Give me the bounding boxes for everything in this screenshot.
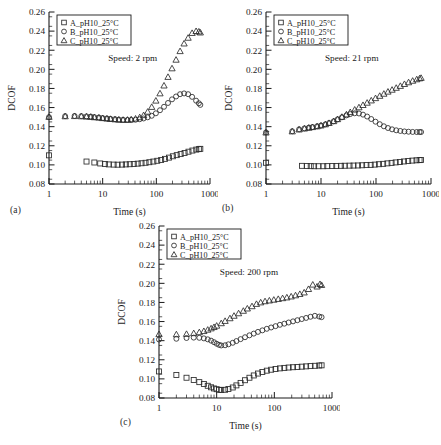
y-tick-label: 0.16	[139, 317, 155, 327]
marker-square	[191, 378, 196, 383]
y-tick-label: 0.20	[246, 65, 262, 75]
y-tick-label: 0.20	[139, 279, 155, 289]
marker-triangle	[173, 57, 179, 63]
series-B_pH10_25°C	[264, 111, 424, 135]
series-C_pH10_25°C	[263, 75, 424, 135]
marker-triangle	[165, 74, 171, 80]
y-tick-label: 0.08	[246, 179, 262, 189]
legend-label: A_pH10_25°C	[287, 19, 336, 28]
marker-triangle	[310, 282, 316, 288]
marker-square	[92, 160, 97, 165]
y-tick-label: 0.26	[246, 7, 262, 17]
marker-triangle	[161, 82, 167, 88]
y-axis-title: DCOF	[223, 85, 234, 111]
panel-label-b: (b)	[222, 203, 234, 213]
x-tick-label: 10	[316, 189, 326, 199]
y-tick-label: 0.12	[29, 141, 45, 151]
x-tick-label: 1	[157, 403, 162, 413]
marker-triangle	[249, 303, 255, 309]
x-tick-label: 10	[98, 189, 108, 199]
x-tick-label: 10	[212, 403, 222, 413]
series-B_pH10_25°C	[47, 91, 203, 123]
x-tick-label: 1	[47, 189, 52, 199]
x-tick-label: 1000	[323, 403, 340, 413]
plot-area-c: 0.080.100.120.140.160.180.200.220.240.26…	[112, 216, 340, 444]
marker-square	[299, 163, 304, 168]
series-A_pH10_25°C	[47, 146, 203, 167]
y-tick-label: 0.18	[139, 298, 155, 308]
legend-label: A_pH10_25°C	[180, 233, 229, 242]
figure-dcof-vs-time: 0.080.100.120.140.160.180.200.220.240.26…	[0, 0, 441, 445]
marker-triangle	[157, 90, 163, 96]
panel-label-a: (a)	[10, 205, 21, 215]
marker-square	[417, 158, 422, 163]
chart-panel-c: 0.080.100.120.140.160.180.200.220.240.26…	[112, 216, 340, 444]
plot-area-b: 0.080.100.120.140.160.180.200.220.240.26…	[219, 2, 439, 230]
y-axis-title: DCOF	[6, 85, 17, 111]
chart-panel-b: 0.080.100.120.140.160.180.200.220.240.26…	[219, 2, 439, 230]
legend-label: B_pH10_25°C	[70, 28, 118, 37]
y-tick-label: 0.20	[29, 65, 45, 75]
y-tick-label: 0.16	[246, 103, 262, 113]
marker-triangle	[153, 98, 159, 104]
marker-square	[98, 161, 103, 166]
y-tick-label: 0.22	[139, 260, 155, 270]
chart-panel-a: 0.080.100.120.140.160.180.200.220.240.26…	[2, 2, 218, 230]
marker-triangle	[401, 81, 407, 87]
marker-triangle	[169, 65, 175, 71]
y-tick-label: 0.12	[139, 355, 155, 365]
y-tick-label: 0.18	[246, 84, 262, 94]
y-tick-label: 0.26	[139, 221, 155, 231]
y-tick-label: 0.10	[139, 374, 155, 384]
marker-triangle	[149, 104, 155, 110]
y-tick-label: 0.14	[139, 336, 155, 346]
speed-annotation: Speed: 21 rpm	[325, 53, 379, 63]
marker-circle	[166, 100, 171, 105]
y-tick-label: 0.10	[246, 160, 262, 170]
x-tick-label: 100	[149, 189, 163, 199]
marker-square	[84, 159, 89, 164]
x-tick-label: 100	[369, 189, 383, 199]
legend-label: C_pH10_25°C	[287, 37, 335, 46]
marker-triangle	[177, 48, 183, 54]
y-tick-label: 0.26	[29, 7, 45, 17]
y-tick-label: 0.14	[29, 122, 45, 132]
series-B_pH10_25°C	[157, 313, 325, 348]
x-tick-label: 1000	[422, 189, 439, 199]
y-axis-title: DCOF	[116, 299, 127, 325]
marker-triangle	[141, 112, 147, 118]
marker-triangle	[405, 79, 411, 85]
x-tick-label: 1	[264, 189, 269, 199]
y-tick-label: 0.22	[29, 46, 45, 56]
y-tick-label: 0.08	[139, 393, 155, 403]
legend-label: B_pH10_25°C	[180, 242, 228, 251]
series-C_pH10_25°C	[156, 281, 325, 337]
marker-triangle	[181, 40, 187, 46]
marker-circle	[190, 94, 195, 99]
y-tick-label: 0.18	[29, 84, 45, 94]
legend-label: A_pH10_25°C	[70, 19, 119, 28]
x-tick-label: 100	[267, 403, 281, 413]
y-tick-label: 0.12	[246, 141, 262, 151]
y-tick-label: 0.24	[246, 26, 262, 36]
panel-label-c: (c)	[120, 417, 131, 427]
series-A_pH10_25°C	[157, 363, 325, 393]
series-A_pH10_25°C	[264, 158, 424, 169]
legend-label: B_pH10_25°C	[287, 28, 335, 37]
x-tick-label: 1000	[201, 189, 218, 199]
x-axis-title: Time (s)	[229, 420, 261, 432]
marker-square	[184, 375, 189, 380]
y-tick-label: 0.10	[29, 160, 45, 170]
y-tick-label: 0.08	[29, 179, 45, 189]
y-tick-label: 0.16	[29, 103, 45, 113]
y-tick-label: 0.24	[139, 240, 155, 250]
marker-square	[174, 373, 179, 378]
y-tick-label: 0.24	[29, 26, 45, 36]
legend-label: C_pH10_25°C	[70, 37, 118, 46]
y-tick-label: 0.22	[246, 46, 262, 56]
y-tick-label: 0.14	[246, 122, 262, 132]
speed-annotation: Speed: 2 rpm	[108, 53, 157, 63]
plot-area-a: 0.080.100.120.140.160.180.200.220.240.26…	[2, 2, 218, 230]
speed-annotation: Speed: 200 rpm	[220, 267, 278, 277]
legend-label: C_pH10_25°C	[180, 251, 228, 260]
